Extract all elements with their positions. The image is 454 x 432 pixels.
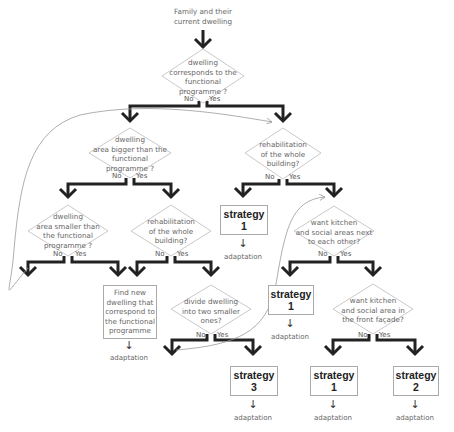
d6-no-label: No bbox=[318, 250, 328, 258]
adaptation-label: adaptation bbox=[396, 414, 434, 422]
strategy-number: 3 bbox=[231, 381, 277, 393]
d5-no-label: No bbox=[155, 250, 165, 258]
d3-no-label: No bbox=[265, 173, 275, 181]
strategy-title: strategy bbox=[231, 369, 277, 381]
decision-kitchen-front: want kitchen and social area in the fron… bbox=[341, 296, 404, 325]
d1-yes-label: Yes bbox=[209, 95, 220, 103]
find-new-dwelling-box: Find new dwelling that correspond to the… bbox=[103, 285, 157, 339]
strategy-title: strategy bbox=[269, 288, 313, 300]
decision-rehab-whole-2: rehabilitation of the whole building? bbox=[147, 217, 195, 246]
adaptation-label: adaptation bbox=[271, 333, 309, 341]
d2-yes-label: Yes bbox=[136, 172, 147, 180]
d8-yes-label: Yes bbox=[379, 331, 390, 339]
strategy-title: strategy bbox=[311, 369, 357, 381]
down-arrow-icon: ↓ bbox=[328, 399, 337, 410]
d7-no-label: No bbox=[196, 331, 206, 339]
d7-yes-label: Yes bbox=[217, 331, 228, 339]
adaptation-label: adaptation bbox=[314, 414, 352, 422]
d4-no-label: No bbox=[53, 250, 63, 258]
strategy-number: 1 bbox=[221, 220, 267, 232]
d4-yes-label: Yes bbox=[75, 250, 86, 258]
strategy-title: strategy bbox=[394, 369, 438, 381]
d5-yes-label: Yes bbox=[177, 250, 188, 258]
strategy-1-box-b: strategy 1 bbox=[268, 285, 314, 315]
strategy-number: 1 bbox=[311, 381, 357, 393]
strategy-1-box-c: strategy 1 bbox=[310, 366, 358, 396]
decision-kitchen-next: want kitchen and social areas next to ea… bbox=[296, 218, 373, 247]
strategy-number: 2 bbox=[394, 381, 438, 393]
d8-no-label: No bbox=[358, 331, 368, 339]
adaptation-label: adaptation bbox=[234, 414, 272, 422]
decision-divide: divide dwelling into two smaller ones? bbox=[182, 297, 240, 326]
down-arrow-icon: ↓ bbox=[124, 340, 133, 351]
down-arrow-icon: ↓ bbox=[238, 238, 247, 249]
strategy-3-box: strategy 3 bbox=[230, 366, 278, 396]
decision-area-bigger: dwelling area bigger than the functional… bbox=[93, 135, 167, 173]
start-node: Family and their current dwelling bbox=[174, 7, 232, 26]
strategy-title: strategy bbox=[221, 208, 267, 220]
d2-no-label: No bbox=[112, 172, 122, 180]
decision-corresponds: dwelling corresponds to the functional p… bbox=[169, 58, 237, 96]
adaptation-label: adaptation bbox=[224, 253, 262, 261]
d6-yes-label: Yes bbox=[340, 250, 351, 258]
strategy-number: 1 bbox=[269, 300, 313, 312]
d1-no-label: No bbox=[184, 95, 194, 103]
down-arrow-icon: ↓ bbox=[248, 399, 257, 410]
decision-area-smaller: dwelling area smaller than the functiona… bbox=[36, 212, 99, 250]
d3-yes-label: Yes bbox=[289, 173, 300, 181]
adaptation-label: adaptation bbox=[110, 354, 148, 362]
down-arrow-icon: ↓ bbox=[410, 399, 419, 410]
strategy-2-box: strategy 2 bbox=[393, 366, 439, 396]
strategy-1-box-a: strategy 1 bbox=[220, 205, 268, 235]
down-arrow-icon: ↓ bbox=[285, 318, 294, 329]
decision-rehab-whole-1: rehabilitation of the whole building? bbox=[259, 140, 307, 169]
